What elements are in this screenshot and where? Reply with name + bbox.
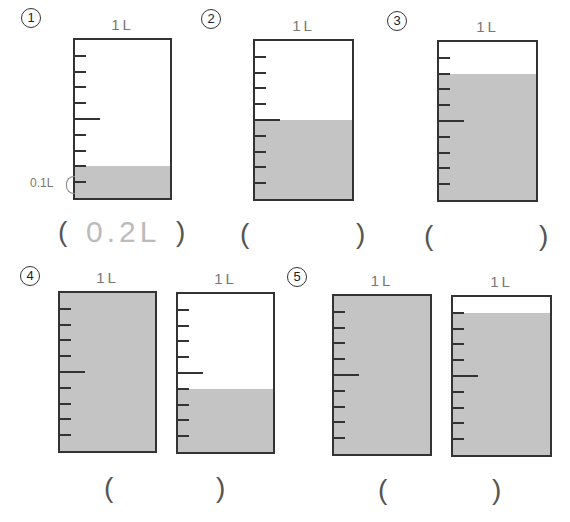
- scale-tick: [178, 325, 189, 327]
- scale-tick: [75, 102, 86, 104]
- half-liter-tick: [439, 120, 464, 122]
- scale-tick: [178, 435, 189, 437]
- scale-tick: [75, 86, 86, 88]
- half-liter-tick: [178, 372, 203, 374]
- scale-tick: [75, 134, 86, 136]
- answer-paren-open: (: [58, 218, 67, 246]
- answer-paren-open: (: [240, 220, 249, 248]
- scale-tick: [334, 390, 345, 392]
- scale-tick: [453, 328, 464, 330]
- scale-tick: [453, 438, 464, 440]
- answer-paren-close: ): [176, 218, 185, 246]
- scale-unit-label: 0.1L: [30, 176, 53, 190]
- scale-tick: [334, 437, 345, 439]
- problem-number: 5: [287, 267, 307, 287]
- scale-tick: [439, 136, 450, 138]
- scale-tick: [60, 387, 71, 389]
- scale-tick: [439, 152, 450, 154]
- scale-tick: [178, 388, 189, 390]
- scale-tick: [178, 309, 189, 311]
- scale-tick: [439, 57, 450, 59]
- scale-tick: [178, 404, 189, 406]
- answer-paren-open: (: [104, 474, 113, 502]
- measuring-container: [332, 294, 432, 456]
- scale-tick: [178, 340, 189, 342]
- half-liter-tick: [60, 371, 85, 373]
- scale-tick: [439, 88, 450, 90]
- measuring-container: [437, 40, 538, 202]
- problem-number: 2: [201, 9, 221, 29]
- scale-tick: [60, 355, 71, 357]
- scale-tick: [60, 418, 71, 420]
- liquid-fill: [178, 389, 273, 452]
- half-liter-tick: [453, 375, 478, 377]
- problem-number: 1: [21, 8, 41, 28]
- scale-bracket-icon: [66, 176, 75, 194]
- scale-tick: [255, 151, 266, 153]
- scale-tick: [439, 73, 450, 75]
- scale-tick: [60, 339, 71, 341]
- answer-paren-close: ): [492, 476, 501, 504]
- scale-tick: [334, 327, 345, 329]
- scale-tick: [453, 343, 464, 345]
- scale-tick: [75, 150, 86, 152]
- answer-paren-close: ): [216, 474, 225, 502]
- scale-tick: [255, 56, 266, 58]
- scale-tick: [255, 103, 266, 105]
- half-liter-tick: [75, 118, 100, 120]
- scale-tick: [334, 358, 345, 360]
- answer-paren-open: (: [378, 476, 387, 504]
- scale-tick: [453, 407, 464, 409]
- liquid-fill: [453, 313, 550, 455]
- answer-paren-close: ): [356, 220, 365, 248]
- measuring-container: [253, 39, 354, 201]
- capacity-label: 1L: [96, 269, 119, 286]
- scale-tick: [334, 421, 345, 423]
- scale-tick: [334, 311, 345, 313]
- half-liter-tick: [255, 119, 280, 121]
- scale-tick: [255, 72, 266, 74]
- capacity-label: 1L: [111, 16, 134, 33]
- answer-field[interactable]: 0.2L: [86, 217, 160, 247]
- scale-tick: [439, 167, 450, 169]
- scale-tick: [75, 181, 86, 183]
- scale-tick: [75, 71, 86, 73]
- measuring-container: [451, 295, 552, 457]
- measuring-container: [58, 291, 157, 453]
- scale-tick: [255, 182, 266, 184]
- scale-tick: [60, 324, 71, 326]
- problem-number: 3: [387, 11, 407, 31]
- capacity-label: 1L: [292, 17, 315, 34]
- scale-tick: [178, 419, 189, 421]
- scale-tick: [255, 87, 266, 89]
- capacity-label: 1L: [490, 273, 513, 290]
- measuring-container: [73, 38, 172, 200]
- scale-tick: [60, 403, 71, 405]
- scale-tick: [453, 359, 464, 361]
- capacity-label: 1L: [371, 272, 394, 289]
- scale-tick: [60, 434, 71, 436]
- capacity-label: 1L: [476, 18, 499, 35]
- scale-tick: [439, 183, 450, 185]
- scale-tick: [60, 308, 71, 310]
- scale-tick: [439, 104, 450, 106]
- liquid-fill: [255, 120, 352, 199]
- half-liter-tick: [334, 374, 359, 376]
- liquid-fill: [439, 74, 536, 200]
- scale-tick: [178, 356, 189, 358]
- scale-tick: [334, 342, 345, 344]
- scale-tick: [334, 406, 345, 408]
- answer-paren-close: ): [539, 222, 548, 250]
- liquid-fill: [75, 166, 170, 198]
- scale-tick: [453, 312, 464, 314]
- measuring-container: [176, 292, 275, 454]
- answer-paren-open: (: [424, 222, 433, 250]
- scale-tick: [453, 422, 464, 424]
- scale-tick: [255, 135, 266, 137]
- problem-number: 4: [20, 266, 40, 286]
- capacity-label: 1L: [214, 270, 237, 287]
- scale-tick: [453, 391, 464, 393]
- scale-tick: [255, 166, 266, 168]
- scale-tick: [75, 165, 86, 167]
- scale-tick: [75, 55, 86, 57]
